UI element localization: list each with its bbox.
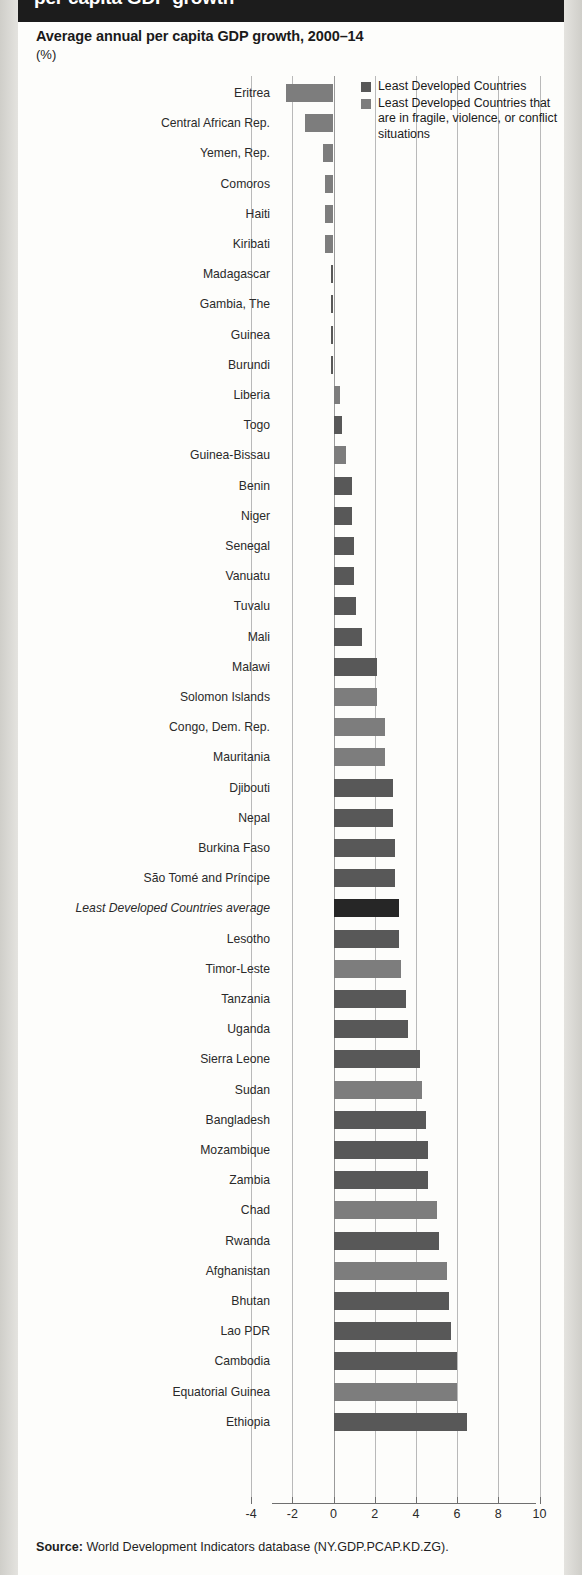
category-label: Lesotho <box>227 932 270 946</box>
bar <box>334 597 357 615</box>
category-label: Mali <box>248 630 270 644</box>
category-label: Gambia, The <box>200 297 270 311</box>
bar <box>334 748 386 766</box>
category-label: Equatorial Guinea <box>172 1385 270 1399</box>
bar <box>331 326 333 344</box>
bar <box>334 779 394 797</box>
category-label: Niger <box>241 509 270 523</box>
bar <box>325 175 333 193</box>
bar <box>334 1413 468 1431</box>
chart-row: Solomon Islands <box>0 682 582 712</box>
bar <box>334 960 402 978</box>
chart-row: Bhutan <box>0 1286 582 1316</box>
legend-label: Least Developed Countries that are in fr… <box>378 96 561 143</box>
chart-row: São Tomé and Príncipe <box>0 863 582 893</box>
category-label: São Tomé and Príncipe <box>144 871 270 885</box>
bar <box>334 1352 458 1370</box>
category-label: Senegal <box>225 539 270 553</box>
category-label: Lao PDR <box>221 1324 270 1338</box>
x-tick-mark <box>457 1497 458 1504</box>
bar <box>286 84 333 102</box>
x-axis-line <box>272 1503 536 1504</box>
legend-swatch <box>361 99 371 109</box>
chart-row: Rwanda <box>0 1226 582 1256</box>
bar <box>334 1141 429 1159</box>
category-label: Malawi <box>232 660 270 674</box>
bar <box>334 1292 449 1310</box>
category-label: Least Developed Countries average <box>76 901 270 915</box>
x-tick-label: -2 <box>287 1507 298 1521</box>
category-label: Yemen, Rep. <box>200 146 270 160</box>
x-tick-mark <box>292 1497 293 1504</box>
bar <box>334 1232 439 1250</box>
category-label: Haiti <box>246 207 270 221</box>
category-label: Benin <box>239 479 270 493</box>
bar <box>334 930 400 948</box>
bar <box>334 1171 429 1189</box>
x-tick-label: 8 <box>495 1507 502 1521</box>
category-label: Central African Rep. <box>161 116 270 130</box>
x-tick-label: 6 <box>454 1507 461 1521</box>
bar <box>334 839 396 857</box>
chart-row: Chad <box>0 1195 582 1225</box>
chart-row: Sudan <box>0 1075 582 1105</box>
category-label: Guinea <box>231 328 270 342</box>
x-tick-mark <box>498 1497 499 1504</box>
x-tick-label: 10 <box>533 1507 547 1521</box>
bar <box>334 1050 421 1068</box>
chart-row: Equatorial Guinea <box>0 1377 582 1407</box>
chart-row: Malawi <box>0 652 582 682</box>
chart-legend: Least Developed CountriesLeast Developed… <box>361 79 561 143</box>
category-label: Congo, Dem. Rep. <box>169 720 270 734</box>
chart-row: Afghanistan <box>0 1256 582 1286</box>
bar <box>334 869 396 887</box>
bar <box>334 658 377 676</box>
x-tick-label: 2 <box>371 1507 378 1521</box>
chart-plot-area: EritreaCentral African Rep.Yemen, Rep.Co… <box>0 0 582 1575</box>
chart-row: Lesotho <box>0 924 582 954</box>
chart-row: Nepal <box>0 803 582 833</box>
category-label: Rwanda <box>225 1234 270 1248</box>
category-label: Sudan <box>235 1083 270 1097</box>
x-tick-label: -4 <box>246 1507 257 1521</box>
x-tick-mark <box>375 1497 376 1504</box>
bar <box>334 1020 408 1038</box>
category-label: Tanzania <box>221 992 270 1006</box>
category-label: Kiribati <box>233 237 270 251</box>
chart-row: Liberia <box>0 380 582 410</box>
category-label: Mozambique <box>200 1143 270 1157</box>
chart-row: Sierra Leone <box>0 1044 582 1074</box>
chart-row: Bangladesh <box>0 1105 582 1135</box>
bar <box>334 537 355 555</box>
bar <box>325 205 333 223</box>
bar <box>334 628 363 646</box>
category-label: Eritrea <box>234 86 270 100</box>
legend-item: Least Developed Countries that are in fr… <box>361 96 561 143</box>
category-label: Comoros <box>221 177 270 191</box>
bar <box>334 567 355 585</box>
bar <box>331 356 333 374</box>
bar <box>331 265 333 283</box>
bar <box>334 416 342 434</box>
category-label: Tuvalu <box>234 599 270 613</box>
chart-row: Congo, Dem. Rep. <box>0 712 582 742</box>
chart-row: Guinea <box>0 320 582 350</box>
bar <box>334 718 386 736</box>
chart-row: Senegal <box>0 531 582 561</box>
category-label: Timor-Leste <box>205 962 270 976</box>
bar <box>334 446 346 464</box>
chart-row: Benin <box>0 471 582 501</box>
category-label: Zambia <box>229 1173 270 1187</box>
bar <box>334 1201 437 1219</box>
chart-row: Comoros <box>0 169 582 199</box>
category-label: Uganda <box>227 1022 270 1036</box>
bar <box>334 386 340 404</box>
bar <box>305 114 334 132</box>
chart-row: Mali <box>0 622 582 652</box>
category-label: Mauritania <box>213 750 270 764</box>
x-tick-label: 4 <box>412 1507 419 1521</box>
category-label: Nepal <box>238 811 270 825</box>
chart-row: Timor-Leste <box>0 954 582 984</box>
chart-row: Madagascar <box>0 259 582 289</box>
bar <box>334 1081 423 1099</box>
